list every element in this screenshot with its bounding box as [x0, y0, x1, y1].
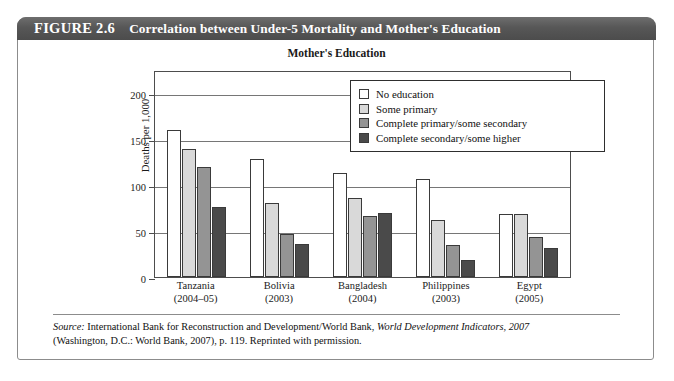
bar	[514, 214, 528, 277]
x-axis-labels: Tanzania(2004–05)Bolivia(2003)Bangladesh…	[154, 280, 571, 305]
bar	[295, 244, 309, 277]
x-axis-label-year: (2004–05)	[154, 293, 237, 306]
chart-legend: No education Some primary Complete prima…	[350, 80, 605, 152]
legend-item: Complete primary/some secondary	[359, 116, 595, 131]
bar	[446, 245, 460, 277]
legend-label-complete-secondary: Complete secondary/some higher	[376, 132, 521, 144]
bar	[363, 216, 377, 277]
bar	[167, 130, 181, 277]
bar	[280, 234, 294, 277]
figure-page: FIGURE 2.6 Correlation between Under-5 M…	[0, 0, 674, 381]
bar	[544, 248, 558, 277]
bar	[378, 213, 392, 277]
legend-label-some-primary: Some primary	[376, 103, 437, 115]
bar	[431, 220, 445, 277]
x-axis-label: Bolivia(2003)	[237, 280, 320, 305]
y-axis-tick-label: 50	[136, 228, 147, 239]
bar-group	[155, 72, 238, 277]
bar	[250, 159, 264, 277]
legend-swatch-complete-secondary	[359, 133, 369, 143]
y-axis-tick-label: 0	[141, 274, 146, 285]
bar	[197, 167, 211, 277]
bar	[182, 149, 196, 277]
figure-card: FIGURE 2.6 Correlation between Under-5 M…	[17, 17, 654, 360]
source-divider	[53, 314, 620, 315]
bar	[265, 203, 279, 277]
legend-swatch-complete-primary	[359, 118, 369, 128]
x-axis-label-year: (2004)	[321, 293, 404, 306]
source-text-a: International Bank for Reconstruction an…	[85, 321, 377, 332]
chart-title: Mother's Education	[18, 47, 655, 59]
bar	[499, 214, 513, 277]
bar	[461, 260, 475, 277]
source-note: Source: International Bank for Reconstru…	[53, 320, 631, 348]
x-axis-label: Bangladesh(2004)	[321, 280, 404, 305]
bar	[333, 173, 347, 277]
x-axis-label: Tanzania(2004–05)	[154, 280, 237, 305]
x-axis-label-year: (2003)	[237, 293, 320, 306]
y-axis-tick-label: 100	[130, 182, 146, 193]
legend-item: No education	[359, 87, 595, 102]
x-axis-label: Egypt(2005)	[488, 280, 571, 305]
x-axis-label: Philippines(2003)	[404, 280, 487, 305]
legend-swatch-some-primary	[359, 104, 369, 114]
figure-number: FIGURE 2.6	[34, 20, 115, 37]
x-axis-label-country: Bolivia	[237, 280, 320, 293]
figure-title: Correlation between Under-5 Mortality an…	[129, 21, 501, 37]
bar	[529, 237, 543, 277]
legend-item: Some primary	[359, 102, 595, 117]
x-axis-label-country: Tanzania	[154, 280, 237, 293]
legend-label-no-education: No education	[376, 88, 434, 100]
source-publication: World Development Indicators, 2007	[377, 321, 529, 332]
figure-header: FIGURE 2.6 Correlation between Under-5 M…	[17, 17, 656, 40]
source-text-b: (Washington, D.C.: World Bank, 2007), p.…	[53, 335, 362, 346]
bar	[416, 179, 430, 277]
y-axis-tick-label: 150	[130, 136, 146, 147]
legend-swatch-no-education	[359, 89, 369, 99]
bar	[348, 198, 362, 277]
y-axis-tick-label: 200	[130, 90, 146, 101]
bar	[212, 207, 226, 277]
x-axis-label-year: (2005)	[488, 293, 571, 306]
x-axis-label-country: Bangladesh	[321, 280, 404, 293]
legend-item: Complete secondary/some higher	[359, 131, 595, 146]
x-axis-label-year: (2003)	[404, 293, 487, 306]
bar-group	[238, 72, 321, 277]
source-prefix: Source:	[53, 321, 85, 332]
x-axis-label-country: Egypt	[488, 280, 571, 293]
legend-label-complete-primary: Complete primary/some secondary	[376, 117, 527, 129]
x-axis-label-country: Philippines	[404, 280, 487, 293]
